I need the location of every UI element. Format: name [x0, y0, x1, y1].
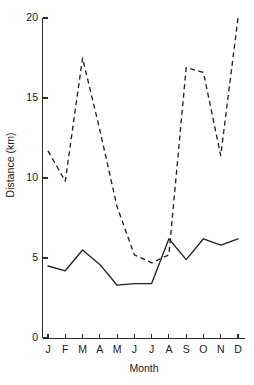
x-axis-tick-label: J: [132, 343, 137, 355]
data-series-group: [48, 18, 238, 285]
x-axis-tick-label: M: [78, 343, 87, 355]
series-line-solid: [48, 239, 238, 285]
x-axis-ticks: [48, 334, 238, 339]
x-axis-tick-label: F: [62, 343, 68, 355]
y-axis-tick-label: 15: [26, 91, 38, 103]
x-axis-tick-label: A: [96, 343, 103, 355]
chart-figure: 05101520 JFMAMJJASOND Month Distance (km…: [0, 0, 254, 385]
y-axis-tick-label: 5: [32, 251, 38, 263]
y-axis-tick-labels: 05101520: [26, 11, 38, 343]
y-axis-tick-label: 20: [26, 11, 38, 23]
x-axis-tick-label: D: [234, 343, 242, 355]
x-axis-tick-label: J: [149, 343, 154, 355]
y-axis-tick-label: 10: [26, 171, 38, 183]
x-axis-title: Month: [129, 362, 158, 374]
series-line-dashed: [48, 18, 238, 263]
x-axis-tick-label: N: [217, 343, 225, 355]
x-axis-tick-label: S: [183, 343, 190, 355]
x-axis-group: JFMAMJJASOND: [43, 334, 246, 356]
y-axis-ticks: [43, 18, 48, 338]
y-axis-tick-label: 0: [32, 331, 38, 343]
x-axis-tick-label: O: [199, 343, 207, 355]
x-axis-tick-labels: JFMAMJJASOND: [45, 343, 242, 355]
y-axis-title: Distance (km): [4, 133, 16, 198]
x-axis-tick-label: M: [113, 343, 122, 355]
x-axis-tick-label: A: [165, 343, 172, 355]
line-chart-plot: 05101520 JFMAMJJASOND Month Distance (km…: [0, 0, 254, 385]
y-axis-group: 05101520: [26, 11, 47, 343]
x-axis-tick-label: J: [45, 343, 50, 355]
